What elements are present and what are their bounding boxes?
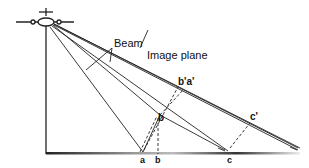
- beam-rays: [50, 24, 298, 152]
- diagram-canvas: [0, 0, 309, 168]
- point-a-label: a: [140, 156, 145, 165]
- point-b-prime-a-prime-label: b'a': [178, 77, 194, 87]
- beam-label: Beam: [114, 38, 143, 49]
- aircraft-icon: [16, 8, 74, 26]
- b-ray: [160, 115, 225, 150]
- point-c-label: c: [227, 156, 232, 165]
- point-b-ground-label: b: [155, 156, 161, 165]
- ground-line: [46, 152, 300, 155]
- elevated-object: [140, 115, 160, 152]
- beam-pointer: [86, 48, 112, 70]
- point-b-elevated-label: b: [158, 113, 164, 123]
- image-plane-line: [54, 24, 300, 148]
- radar-geometry-diagram: Beam Image plane b'a' c' b a b c: [0, 0, 309, 168]
- image-plane-label: Image plane: [147, 50, 208, 61]
- point-c-prime-label: c': [250, 112, 258, 122]
